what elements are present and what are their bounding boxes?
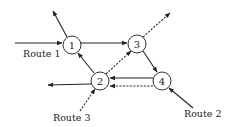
route3-entry-edge	[80, 89, 95, 111]
node-3: 3	[128, 35, 146, 53]
node-3-label: 3	[134, 39, 140, 50]
route2-entry-edge	[169, 88, 193, 108]
edge-3-to-4	[143, 51, 157, 72]
route3-label: Route 3	[53, 112, 91, 123]
exit-left-edge	[48, 84, 91, 85]
route-diagram: 1 2 3 4 Route 1 Route 2 Route 3	[0, 0, 226, 127]
node-2: 2	[91, 72, 109, 90]
node-4-label: 4	[159, 76, 165, 87]
node-1: 1	[63, 36, 81, 54]
route2-label: Route 2	[184, 108, 222, 119]
exit-top-left-edge	[53, 11, 67, 37]
route1-label: Route 1	[23, 48, 61, 59]
node-4: 4	[153, 72, 171, 90]
node-2-label: 2	[97, 76, 103, 87]
edge-2-to-3	[106, 51, 131, 74]
node-1-label: 1	[69, 40, 75, 51]
edge-2-to-1	[78, 53, 94, 73]
exit-top-right-edge	[143, 13, 170, 37]
